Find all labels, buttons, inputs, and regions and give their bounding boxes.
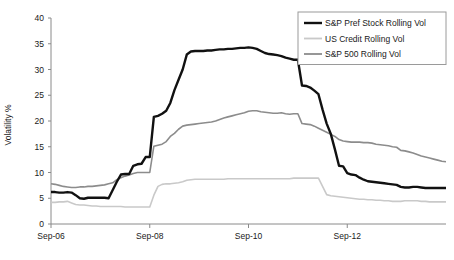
y-tick-label: 10 bbox=[35, 168, 45, 178]
y-tick-label: 20 bbox=[35, 116, 45, 126]
x-tick-label: Sep-08 bbox=[136, 231, 164, 241]
chart-legend[interactable]: S&P Pref Stock Rolling VolUS Credit Roll… bbox=[298, 12, 446, 65]
y-tick-label: 35 bbox=[35, 39, 45, 49]
legend-item-label[interactable]: US Credit Rolling Vol bbox=[325, 34, 404, 44]
y-axis-title: Volatility % bbox=[3, 104, 13, 146]
y-tick-label: 30 bbox=[35, 65, 45, 75]
y-tick-label: 25 bbox=[35, 90, 45, 100]
y-tick-label: 5 bbox=[39, 193, 44, 203]
chart-canvas: 0510152025303540 Sep-06Sep-08Sep-10Sep-1… bbox=[0, 0, 454, 260]
volatility-line-chart: 0510152025303540 Sep-06Sep-08Sep-10Sep-1… bbox=[0, 0, 454, 260]
y-tick-label: 0 bbox=[39, 219, 44, 229]
y-tick-label: 15 bbox=[35, 142, 45, 152]
x-tick-label: Sep-10 bbox=[235, 231, 263, 241]
legend-item-label[interactable]: S&P Pref Stock Rolling Vol bbox=[325, 18, 426, 28]
y-tick-label: 40 bbox=[35, 13, 45, 23]
x-tick-label: Sep-06 bbox=[37, 231, 65, 241]
x-tick-label: Sep-12 bbox=[334, 231, 362, 241]
legend-item-label[interactable]: S&P 500 Rolling Vol bbox=[325, 49, 401, 59]
